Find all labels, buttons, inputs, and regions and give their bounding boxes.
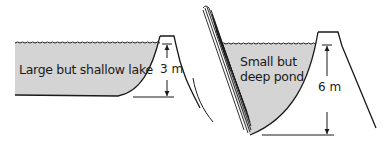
deep-pond-label-line1: Small but [240,55,297,69]
deep-pond-label-line2: deep pond [240,70,304,84]
shallow-lake-surface-wave [15,42,160,43]
arrow-head-down [325,129,330,134]
arrow-head-up [165,45,170,50]
arrow-head-down [165,91,170,96]
deep-pond-depth-label: 6 m [318,81,341,94]
arrow-head-up [325,46,330,51]
deep-pond-surface-wave [221,43,316,44]
shallow-lake-depth-label: 3 m [160,63,183,76]
shallow-lake-label: Large but shallow lake [19,63,153,77]
